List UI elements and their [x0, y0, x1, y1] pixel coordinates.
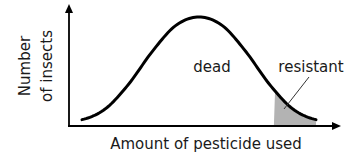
y-axis-label-line-2: of insects — [38, 30, 56, 102]
resistant-pointer-line — [284, 77, 309, 109]
dead-label: dead — [193, 58, 230, 76]
x-axis-arrow-icon — [332, 122, 341, 130]
y-axis-label-line-1: Number — [16, 35, 34, 96]
x-axis-label: Amount of pesticide used — [110, 135, 302, 153]
y-axis-arrow-icon — [65, 4, 73, 13]
resistant-label: resistant — [278, 58, 343, 76]
chart: dead resistant Amount of pesticide used … — [0, 0, 353, 166]
